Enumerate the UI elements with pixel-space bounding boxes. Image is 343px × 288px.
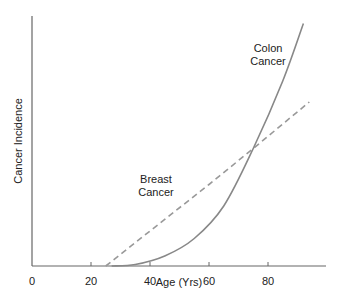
x-tick-label: 60 bbox=[203, 275, 215, 287]
x-tick-label: 40 bbox=[144, 275, 156, 287]
breast-cancer-label: BreastCancer bbox=[138, 173, 174, 198]
x-tick-label: 80 bbox=[262, 275, 274, 287]
x-tick-label: 0 bbox=[29, 275, 35, 287]
series-labels: BreastCancerColonCancer bbox=[138, 42, 286, 198]
x-tick-label: 20 bbox=[85, 275, 97, 287]
chart: 020406080 BreastCancerColonCancer Age (Y… bbox=[0, 0, 343, 288]
y-axis-label: Cancer Incidence bbox=[12, 98, 24, 184]
breast-cancer-line bbox=[106, 102, 310, 266]
x-axis-label: Age (Yrs) bbox=[156, 276, 202, 288]
colon-cancer-label: ColonCancer bbox=[250, 42, 286, 67]
